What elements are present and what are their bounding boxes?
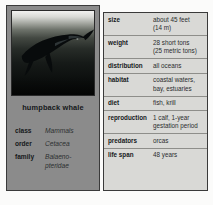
species-summary-panel: humpback whale class Mammals order Cetac…	[6, 5, 100, 191]
fact-value-habitat-line2: bay, estuaries	[153, 85, 204, 93]
page-title: humpback whale	[7, 103, 99, 112]
fact-value-weight-line2: (25 metric tons)	[153, 47, 204, 55]
fact-value-life-span-line1: 48 years	[153, 151, 177, 158]
fact-label-reproduction: reproduction	[104, 111, 149, 134]
taxonomy-label-order: order	[15, 140, 45, 149]
taxonomy-value-family: Balaeno- pteridae	[45, 153, 94, 170]
fact-label-distribution: distribution	[104, 59, 149, 74]
fact-value-diet: fish, krill	[149, 96, 207, 111]
fact-value-diet-line1: fish, krill	[153, 99, 176, 106]
fact-label-weight: weight	[104, 36, 149, 59]
fact-value-size-line1: about 45 feet	[153, 16, 190, 23]
photo-vignette	[12, 77, 94, 95]
fact-label-diet: diet	[104, 96, 149, 111]
taxonomy-row-family: family Balaeno- pteridae	[15, 153, 94, 170]
table-row: diet fish, krill	[104, 96, 207, 111]
taxonomy-row-class: class Mammals	[15, 127, 94, 136]
table-row: distribution all oceans	[104, 59, 207, 74]
taxonomy-value-family-line2: pteridae	[45, 162, 94, 171]
taxonomy-value-class-line1: Mammals	[45, 127, 74, 134]
taxonomy-value-order-line1: Cetacea	[45, 140, 70, 147]
taxonomy-list: class Mammals order Cetacea family Balae…	[15, 127, 94, 175]
taxonomy-label-family: family	[15, 153, 45, 162]
taxonomy-row-order: order Cetacea	[15, 140, 94, 149]
fact-value-reproduction-line1: 1 calf, 1-year	[153, 114, 189, 121]
fact-value-size: about 45 feet (14 m)	[149, 13, 207, 36]
table-row: habitat coastal waters, bay, estuaries	[104, 73, 207, 96]
fact-value-distribution: all oceans	[149, 59, 207, 74]
fact-value-predators-line1: orcas	[153, 137, 168, 144]
table-row: reproduction 1 calf, 1-year gestation pe…	[104, 111, 207, 134]
fact-value-life-span: 48 years	[149, 148, 207, 162]
fact-value-reproduction-line2: gestation period	[153, 122, 204, 130]
facts-panel: size about 45 feet (14 m) weight 28 shor…	[103, 12, 208, 191]
table-row: predators orcas	[104, 134, 207, 149]
fact-value-predators: orcas	[149, 134, 207, 149]
species-photo	[11, 10, 95, 96]
table-row: weight 28 short tons (25 metric tons)	[104, 36, 207, 59]
fact-value-weight: 28 short tons (25 metric tons)	[149, 36, 207, 59]
taxonomy-value-class: Mammals	[45, 127, 94, 136]
fact-label-predators: predators	[104, 134, 149, 149]
fact-label-habitat: habitat	[104, 73, 149, 96]
fact-label-size: size	[104, 13, 149, 36]
fact-value-reproduction: 1 calf, 1-year gestation period	[149, 111, 207, 134]
fact-value-habitat-line1: coastal waters,	[153, 76, 195, 83]
fact-value-weight-line1: 28 short tons	[153, 39, 189, 46]
table-row: life span 48 years	[104, 148, 207, 162]
table-row: size about 45 feet (14 m)	[104, 13, 207, 36]
taxonomy-value-order: Cetacea	[45, 140, 94, 149]
taxonomy-label-class: class	[15, 127, 45, 136]
fact-label-life-span: life span	[104, 148, 149, 162]
taxonomy-value-family-line1: Balaeno-	[45, 153, 71, 160]
species-factsheet: humpback whale class Mammals order Cetac…	[0, 0, 213, 205]
facts-table: size about 45 feet (14 m) weight 28 shor…	[104, 13, 207, 162]
fact-value-distribution-line1: all oceans	[153, 62, 181, 69]
fact-value-habitat: coastal waters, bay, estuaries	[149, 73, 207, 96]
fact-value-size-line2: (14 m)	[153, 24, 204, 32]
